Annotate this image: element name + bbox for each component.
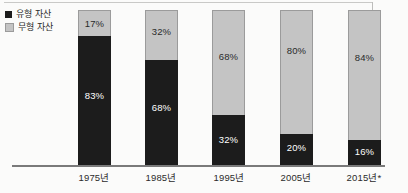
x-axis-labels: 1975년 1985년 1995년 2005년 2015년*: [0, 170, 408, 186]
bar-segment-intangible-1995: 68%: [212, 10, 245, 115]
bar-segment-tangible-2015: 16%: [348, 140, 381, 165]
bar-label-tangible-2005: 20%: [280, 142, 313, 153]
bar-label-intangible-2015: 84%: [349, 52, 380, 63]
bar-segment-intangible-1985: 32%: [145, 10, 178, 60]
bar-label-tangible-2015: 16%: [348, 146, 381, 157]
bar-segment-tangible-1985: 68%: [145, 60, 178, 165]
x-axis-label-2015: 2015년*: [334, 170, 394, 184]
x-axis-label-2005: 2005년: [266, 170, 326, 184]
x-axis-label-1985: 1985년: [131, 170, 191, 184]
bar-column-1995: 68% 32%: [212, 10, 245, 165]
x-axis-line: [12, 165, 385, 167]
plot-area: 17% 83% 32% 68% 68% 32%: [0, 10, 408, 165]
bar-segment-tangible-1995: 32%: [212, 115, 245, 165]
bar-label-tangible-1985: 68%: [145, 102, 178, 113]
bar-label-intangible-1985: 32%: [146, 26, 177, 37]
bar-label-tangible-1975: 83%: [78, 90, 111, 101]
bar-column-1975: 17% 83%: [78, 10, 111, 165]
bar-segment-intangible-2005: 80%: [280, 10, 313, 134]
bar-segment-tangible-1975: 83%: [78, 36, 111, 165]
bar-column-2015: 84% 16%: [348, 10, 381, 165]
page-frame-top-rule: [4, 2, 373, 3]
x-axis-label-1975: 1975년: [64, 170, 124, 184]
bar-segment-tangible-2005: 20%: [280, 134, 313, 165]
bar-segment-intangible-2015: 84%: [348, 10, 381, 140]
bar-column-2005: 80% 20%: [280, 10, 313, 165]
bar-segment-intangible-1975: 17%: [78, 10, 111, 36]
chart-container: 유형 자산 무형 자산 17% 83% 32% 68%: [0, 0, 408, 193]
bar-label-tangible-1995: 32%: [212, 134, 245, 145]
bar-label-intangible-1975: 17%: [85, 18, 104, 29]
x-axis-label-1995: 1995년: [199, 170, 259, 184]
bar-column-1985: 32% 68%: [145, 10, 178, 165]
bar-label-intangible-1995: 68%: [213, 51, 244, 62]
bar-label-intangible-2005: 80%: [281, 45, 312, 56]
